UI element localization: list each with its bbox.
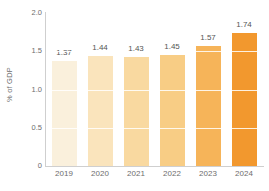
x-axis-tick-label: 2023 [190, 170, 226, 178]
bar-group: 1.57 [196, 13, 221, 166]
plot-area: 1.371.441.431.451.571.74 [46, 13, 262, 166]
bars-layer: 1.371.441.431.451.571.74 [46, 13, 262, 166]
x-axis-tick-label: 2022 [154, 170, 190, 178]
bar[interactable] [52, 61, 77, 166]
y-axis-ticks: 00.51.01.52.0 [22, 13, 42, 166]
bar-value-label: 1.57 [200, 34, 216, 42]
bar-group: 1.43 [124, 13, 149, 166]
bar-group: 1.45 [160, 13, 185, 166]
x-axis-tick-label: 2024 [226, 170, 262, 178]
y-axis-tick-label: 0.5 [32, 124, 42, 132]
bar-group: 1.44 [88, 13, 113, 166]
bar-chart: % of GDP 00.51.01.52.0 1.371.441.431.451… [0, 0, 269, 191]
bar[interactable] [160, 55, 185, 166]
x-axis-labels: 201920202021202220232024 [46, 170, 262, 186]
bar[interactable] [232, 33, 257, 166]
bar-group: 1.74 [232, 13, 257, 166]
x-axis-tick-label: 2021 [118, 170, 154, 178]
bar[interactable] [196, 46, 221, 166]
x-axis-tick-label: 2020 [82, 170, 118, 178]
bar-value-label: 1.74 [236, 21, 252, 29]
y-axis-title: % of GDP [5, 55, 14, 115]
bar[interactable] [124, 57, 149, 166]
bar-group: 1.37 [52, 13, 77, 166]
x-axis-tick-label: 2019 [46, 170, 82, 178]
y-axis-tick-label: 1.5 [32, 48, 42, 56]
bar-value-label: 1.45 [164, 43, 180, 51]
bar-value-label: 1.37 [56, 49, 72, 57]
y-axis-tick-label: 1.0 [32, 86, 42, 94]
bar[interactable] [88, 56, 113, 166]
bar-value-label: 1.44 [92, 44, 108, 52]
y-axis-tick-label: 2.0 [32, 9, 42, 17]
y-axis-tick-label: 0 [38, 162, 42, 170]
x-axis-line [45, 166, 264, 167]
bar-value-label: 1.43 [128, 45, 144, 53]
